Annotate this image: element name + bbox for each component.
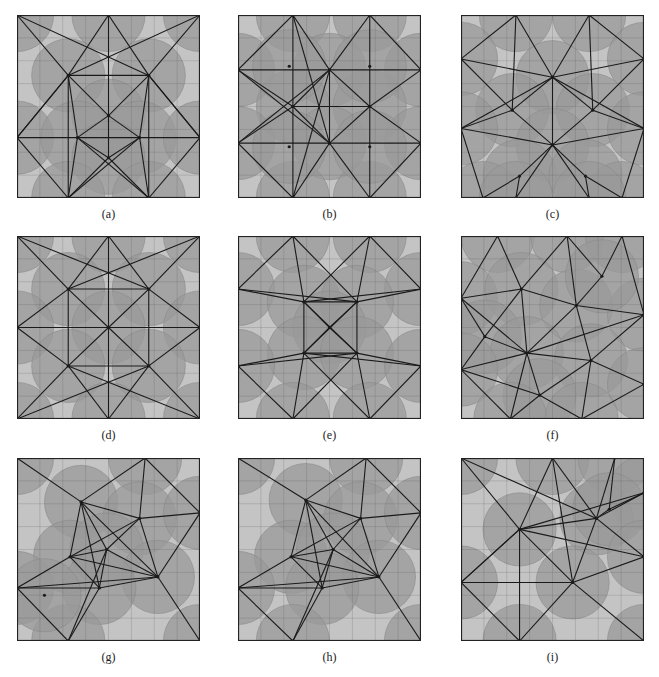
panel-e (238, 236, 421, 419)
panel-d (17, 236, 200, 419)
panel-label-f: (f) (461, 428, 644, 443)
crease-pattern-a (17, 15, 200, 198)
crease-pattern-h (238, 458, 421, 641)
panel-label-c: (c) (461, 207, 644, 222)
panel-h (238, 458, 421, 641)
crease-pattern-b (238, 15, 421, 198)
panel-g (17, 458, 200, 641)
crease-pattern-i (461, 458, 644, 641)
crease-pattern-d (17, 236, 200, 419)
panel-label-i: (i) (461, 650, 644, 665)
panel-a (17, 15, 200, 198)
crease-pattern-e (238, 236, 421, 419)
crease-pattern-g (17, 458, 200, 641)
panel-f (461, 236, 644, 419)
panel-label-h: (h) (238, 650, 421, 665)
panel-label-g: (g) (17, 650, 200, 665)
panel-label-a: (a) (17, 207, 200, 222)
crease-pattern-f (461, 236, 644, 419)
panel-c (461, 15, 644, 198)
panel-b (238, 15, 421, 198)
panel-label-b: (b) (238, 207, 421, 222)
panel-label-e: (e) (238, 428, 421, 443)
crease-pattern-c (461, 15, 644, 198)
panel-label-d: (d) (17, 428, 200, 443)
panel-i (461, 458, 644, 641)
